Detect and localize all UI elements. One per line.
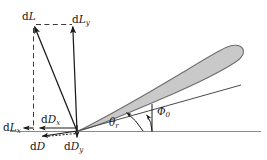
label-theta-r: θr [109, 117, 119, 129]
label-ddx-sym: D [48, 113, 56, 125]
label-dl: dL [22, 11, 36, 22]
label-dly-sym: L [79, 13, 86, 25]
label-ddy: dDy [64, 141, 83, 153]
label-dlx: dLx [3, 122, 21, 134]
label-theta-r-sub: r [115, 121, 118, 130]
label-ddy-sub: y [79, 145, 83, 154]
label-ddx: dDx [41, 114, 60, 126]
label-dlx-sym: L [10, 121, 17, 133]
label-dlx-sub: x [17, 126, 21, 135]
figure-root: dL dLy dLx dDx dD dDy θr Φ0 [0, 0, 267, 160]
label-dd: dD [30, 141, 45, 152]
dly-vector [73, 27, 77, 132]
label-phi-0: Φ0 [157, 106, 170, 118]
label-dl-sym: L [29, 10, 36, 22]
label-dly-d: d [72, 13, 79, 25]
label-dly: dLy [72, 14, 90, 26]
label-ddx-sub: x [56, 118, 60, 127]
label-phi-0-sub: 0 [166, 110, 171, 119]
phi-0-arc [147, 115, 152, 131]
airfoil-shape [80, 45, 244, 130]
label-phi-0-sym: Φ [157, 105, 166, 117]
label-dd-sym: D [37, 140, 45, 152]
label-ddx-d: d [41, 113, 48, 125]
label-dl-d: d [22, 10, 29, 22]
label-ddy-sym: D [71, 140, 79, 152]
label-dlx-d: d [3, 121, 10, 133]
label-dd-d: d [30, 140, 37, 152]
label-dly-sub: y [86, 18, 90, 27]
diagram-canvas [0, 0, 267, 160]
label-ddy-d: d [64, 140, 71, 152]
